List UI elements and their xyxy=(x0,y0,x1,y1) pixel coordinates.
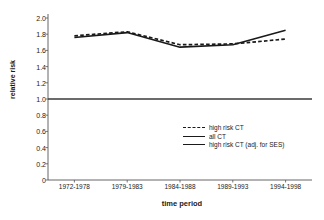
legend-item: high risk CT (adj. for SES) xyxy=(183,141,284,149)
x-tick-label: 1989-1993 xyxy=(203,183,263,190)
legend-item: all CT xyxy=(183,133,284,141)
x-tick-label: 1979-1983 xyxy=(97,183,157,190)
x-axis-title: time period xyxy=(48,199,316,208)
legend-swatch-solid xyxy=(183,133,205,141)
legend-label: all CT xyxy=(209,133,226,141)
relative-risk-line-chart: relative risk 00.20.40.60.81.01.21.41.61… xyxy=(0,0,324,220)
x-tick-label: 1994-1998 xyxy=(256,183,316,190)
legend-item: high risk CT xyxy=(183,124,284,132)
legend-swatch-dashed xyxy=(183,124,205,132)
legend-label: high risk CT (adj. for SES) xyxy=(209,141,284,149)
legend-swatch-solid xyxy=(183,141,205,149)
x-tick-label: 1984-1988 xyxy=(150,183,210,190)
legend-label: high risk CT xyxy=(209,124,244,132)
x-tick-label: 1972-1978 xyxy=(44,183,104,190)
chart-legend: high risk CTall CThigh risk CT (adj. for… xyxy=(183,124,284,150)
